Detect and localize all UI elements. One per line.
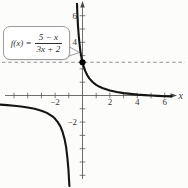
curve-left-branch [0, 105, 69, 186]
x-tick-label: 4 [135, 97, 140, 107]
x-tick-label: 2 [108, 97, 113, 107]
formula-denominator: 3x + 2 [35, 43, 63, 54]
x-tick-label: −2 [50, 97, 60, 107]
y-intercept-point [79, 59, 85, 65]
formula-numerator: 5 − x [37, 33, 60, 43]
y-axis-arrow-icon [80, 1, 85, 8]
formula-fraction: 5 − x 3x + 2 [35, 33, 63, 54]
function-label-callout: f(x) = 5 − x 3x + 2 [3, 26, 70, 60]
curve-right-branch [77, 4, 172, 97]
formula-lhs: f(x) = [11, 39, 32, 48]
x-axis-label: x [178, 90, 184, 101]
figure-canvas: −224664−2x f(x) = 5 − x 3x + 2 [0, 0, 188, 188]
y-tick-label: −2 [67, 117, 77, 127]
y-tick-label: 4 [73, 37, 78, 47]
x-tick-label: 6 [162, 97, 167, 107]
